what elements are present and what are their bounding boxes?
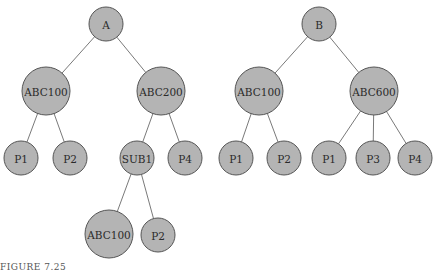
edge xyxy=(387,111,407,143)
node-label: P1 xyxy=(229,153,243,165)
edge xyxy=(117,174,131,212)
node-label: P4 xyxy=(408,153,422,165)
node-label: ABC100 xyxy=(23,86,68,98)
tree-node-b_p4: P4 xyxy=(398,141,432,175)
node-label: P1 xyxy=(14,153,28,165)
node-label: P3 xyxy=(366,153,380,165)
edge xyxy=(27,113,38,142)
tree-a: AABC100ABC200P1P2SUB1P4ABC100P2 xyxy=(4,7,202,258)
node-label: P1 xyxy=(322,153,336,165)
edge xyxy=(141,174,153,218)
edges-layer xyxy=(27,37,406,219)
tree-node-b_p3: P3 xyxy=(356,141,390,175)
tree-node-a_p2: P2 xyxy=(53,141,87,175)
node-label: P4 xyxy=(178,153,192,165)
node-label: P2 xyxy=(151,230,165,242)
edge xyxy=(169,114,179,142)
node-label: P2 xyxy=(63,153,77,165)
edge xyxy=(54,114,64,142)
node-label: ABC100 xyxy=(86,229,131,241)
tree-node-a_sub1_abc100: ABC100 xyxy=(85,210,133,258)
edge xyxy=(242,114,252,142)
node-label: A xyxy=(101,19,110,31)
tree-node-a_sub1: SUB1 xyxy=(120,141,154,175)
edge xyxy=(62,37,95,73)
edge xyxy=(267,113,278,142)
tree-node-a_sub1_p2: P2 xyxy=(141,218,175,252)
edge xyxy=(117,37,146,72)
node-label: SUB1 xyxy=(122,153,152,165)
edge xyxy=(330,37,359,72)
node-label: P2 xyxy=(277,153,291,165)
tree-diagram: AABC100ABC200P1P2SUB1P4ABC100P2BABC100AB… xyxy=(0,0,436,271)
edge xyxy=(143,114,153,142)
tree-node-b_abc600: ABC600 xyxy=(350,67,398,115)
tree-node-b_p2: P2 xyxy=(267,141,301,175)
tree-node-a_p4: P4 xyxy=(168,141,202,175)
tree-node-a_abc100: ABC100 xyxy=(22,67,70,115)
tree-node-b_p1a: P1 xyxy=(219,141,253,175)
node-label: ABC200 xyxy=(138,86,183,98)
tree-node-b: B xyxy=(302,7,336,41)
tree-node-b_p1b: P1 xyxy=(312,141,346,175)
tree-node-a_abc200: ABC200 xyxy=(137,67,185,115)
tree-node-a: A xyxy=(89,7,123,41)
edge xyxy=(275,37,308,73)
figure-caption: FIGURE 7.25 xyxy=(0,262,66,271)
node-label: B xyxy=(315,19,323,31)
tree-node-a_p1: P1 xyxy=(4,141,38,175)
nodes-layer: AABC100ABC200P1P2SUB1P4ABC100P2BABC100AB… xyxy=(4,7,432,258)
node-label: ABC600 xyxy=(351,86,396,98)
tree-b: BABC100ABC600P1P2P1P3P4 xyxy=(219,7,432,175)
tree-node-b_abc100: ABC100 xyxy=(235,67,283,115)
edge xyxy=(338,111,360,144)
node-label: ABC100 xyxy=(236,86,281,98)
